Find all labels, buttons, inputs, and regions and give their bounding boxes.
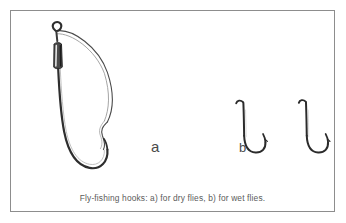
hook-b-2-point (326, 134, 328, 142)
hook-b-2-eye (299, 100, 306, 103)
figure-caption: Fly-fishing hooks: a) for dry flies, b) … (11, 193, 334, 203)
figure-frame: a b Fly-fishing hooks: a) for dry flies,… (10, 10, 335, 212)
hook-b-2-shank (306, 102, 307, 136)
hook-a-eye (53, 22, 62, 31)
hook-b-1-eye (236, 101, 243, 104)
hook-b-2-highlight (308, 110, 309, 137)
hook-b-1-point (263, 134, 265, 142)
hook-a-group (53, 22, 113, 168)
hook-a-shank-highlight (60, 69, 104, 164)
hook-b-1-bend (244, 136, 265, 153)
hook-b-1-shank (243, 103, 244, 136)
hook-a-eye-highlight (55, 24, 56, 28)
figure-label-a: a (151, 139, 159, 154)
hook-a-shank-bend-point (58, 69, 107, 168)
hooks-illustration (11, 11, 334, 211)
figure-page: a b Fly-fishing hooks: a) for dry flies,… (0, 0, 346, 223)
hook-b-1-highlight (246, 110, 247, 137)
hook-b-2-group (299, 100, 330, 152)
hook-b-2-bend (307, 136, 328, 153)
hook-a-eye-neck (56, 31, 57, 41)
weed-guard-wire-outer (57, 31, 113, 122)
figure-label-b: b (239, 141, 246, 154)
weed-guard-wire-inner (57, 34, 109, 121)
